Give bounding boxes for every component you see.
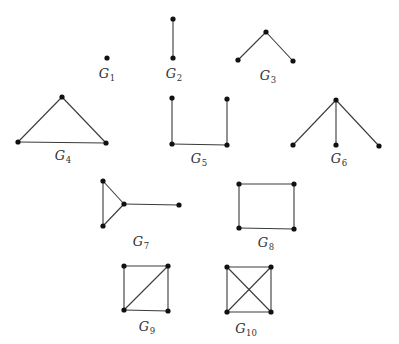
label-letter: G — [166, 66, 176, 81]
label-letter: G — [260, 68, 270, 83]
graph-g5 — [169, 95, 229, 147]
vertex — [170, 55, 175, 60]
vertex — [290, 58, 295, 63]
edge — [124, 310, 168, 311]
label-subscript: 10 — [246, 328, 257, 338]
vertex — [376, 143, 381, 148]
vertex — [268, 309, 273, 314]
vertex — [333, 142, 338, 147]
edge — [18, 97, 62, 142]
vertex — [103, 140, 108, 145]
edge — [124, 204, 179, 205]
vertex — [165, 263, 170, 268]
graph-label-g4: G4 — [55, 149, 71, 162]
label-subscript: 6 — [342, 158, 347, 168]
label-subscript: 2 — [177, 73, 182, 83]
vertex — [100, 223, 105, 228]
graph-g8 — [236, 181, 296, 231]
graph-label-g2: G2 — [166, 67, 182, 80]
vertex — [104, 55, 109, 60]
vertex — [236, 225, 241, 230]
vertex — [121, 201, 126, 206]
graph-g7 — [100, 178, 181, 228]
edge — [124, 266, 168, 310]
edge — [62, 97, 106, 143]
label-letter: G — [235, 321, 245, 336]
vertex — [121, 307, 126, 312]
vertex — [176, 202, 181, 207]
label-letter: G — [55, 148, 65, 163]
label-subscript: 7 — [144, 241, 149, 251]
edge — [238, 32, 266, 60]
graph-label-g10: G10 — [235, 322, 257, 335]
edge — [336, 100, 379, 146]
vertex — [169, 95, 174, 100]
vertex — [291, 226, 296, 231]
vertex — [169, 141, 174, 146]
vertex — [121, 263, 126, 268]
vertex — [170, 16, 175, 21]
graph-g10 — [224, 264, 273, 314]
label-subscript: 8 — [269, 242, 274, 252]
graphs-drawing — [0, 0, 399, 344]
graph-g6 — [290, 97, 381, 148]
vertex — [290, 142, 295, 147]
vertex — [333, 97, 338, 102]
edge — [103, 181, 124, 204]
vertex — [235, 57, 240, 62]
vertex — [224, 142, 229, 147]
vertex — [263, 29, 268, 34]
vertex — [15, 139, 20, 144]
graph-label-g3: G3 — [260, 69, 276, 82]
label-subscript: 3 — [271, 75, 276, 85]
label-letter: G — [258, 235, 268, 250]
vertex — [268, 264, 273, 269]
label-letter: G — [331, 151, 341, 166]
graph-label-g5: G5 — [191, 152, 207, 165]
vertex — [236, 181, 241, 186]
label-letter: G — [99, 66, 109, 81]
graph-label-g7: G7 — [133, 235, 149, 248]
graph-label-g9: G9 — [139, 320, 155, 333]
vertex — [100, 178, 105, 183]
graph-label-g8: G8 — [258, 236, 274, 249]
graph-label-g1: G1 — [99, 67, 115, 80]
edge — [103, 204, 124, 226]
label-subscript: 9 — [150, 326, 155, 336]
graph-g1 — [104, 55, 109, 60]
vertex — [59, 94, 64, 99]
label-letter: G — [139, 319, 149, 334]
label-letter: G — [191, 151, 201, 166]
vertex — [224, 309, 229, 314]
edge — [239, 228, 294, 229]
graph-label-g6: G6 — [331, 152, 347, 165]
graph-figure: G1G2G3G4G5G6G7G8G9G10 — [0, 0, 399, 344]
label-subscript: 4 — [66, 155, 71, 165]
graph-g2 — [170, 16, 175, 60]
vertex — [224, 264, 229, 269]
label-letter: G — [133, 234, 143, 249]
graph-g9 — [121, 263, 170, 313]
edge — [293, 100, 336, 145]
vertex — [165, 308, 170, 313]
label-subscript: 5 — [202, 158, 207, 168]
vertex — [224, 96, 229, 101]
graph-g3 — [235, 29, 295, 63]
vertex — [291, 181, 296, 186]
label-subscript: 1 — [110, 73, 115, 83]
edge — [266, 32, 293, 61]
graph-g4 — [15, 94, 108, 145]
edge — [172, 144, 227, 145]
edge — [18, 142, 106, 143]
